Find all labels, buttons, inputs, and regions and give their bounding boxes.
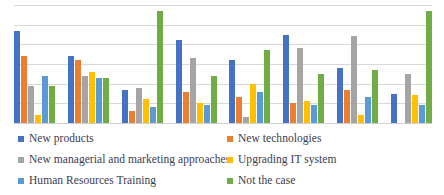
bar xyxy=(143,99,149,123)
bar xyxy=(103,78,109,123)
bar xyxy=(150,107,156,123)
bar xyxy=(337,68,343,123)
bar xyxy=(311,105,317,123)
bar-group xyxy=(229,5,270,123)
legend-item-label: Human Resources Training xyxy=(29,174,156,187)
bar xyxy=(412,95,418,123)
legend-swatch-icon xyxy=(227,157,233,163)
bar xyxy=(229,60,235,123)
bar xyxy=(204,105,210,123)
bar-group xyxy=(68,5,109,123)
legend-item-label: New technologies xyxy=(238,132,322,145)
legend-swatch-icon xyxy=(18,157,24,163)
bar xyxy=(42,76,48,123)
bar xyxy=(28,86,34,123)
legend-swatch-icon xyxy=(227,178,233,184)
bar-group xyxy=(176,5,217,123)
legend-swatch-icon xyxy=(227,136,233,142)
legend-swatch-icon xyxy=(18,136,24,142)
bar xyxy=(190,58,196,123)
chart-legend: New productsNew technologiesNew manageri… xyxy=(18,128,430,190)
bar xyxy=(318,74,324,123)
bar xyxy=(68,56,74,123)
bar xyxy=(257,92,263,123)
bar xyxy=(304,101,310,123)
bar xyxy=(197,103,203,123)
bar xyxy=(129,111,135,123)
bar xyxy=(96,78,102,123)
bar xyxy=(243,117,249,123)
plot-area xyxy=(14,5,432,123)
bar xyxy=(183,92,189,123)
bar xyxy=(236,97,242,123)
bar xyxy=(49,86,55,123)
legend-item-label: Upgrading IT system xyxy=(238,153,336,166)
legend-item[interactable]: Human Resources Training xyxy=(18,170,227,191)
legend-item[interactable]: Not the case xyxy=(227,170,430,191)
bar xyxy=(365,97,371,123)
bar-group xyxy=(122,5,163,123)
axis-baseline xyxy=(14,123,432,124)
bar-group xyxy=(283,5,324,123)
legend-item-label: New managerial and marketing approaches xyxy=(29,153,230,166)
bar xyxy=(176,40,182,123)
bar xyxy=(157,11,163,123)
legend-item[interactable]: New technologies xyxy=(227,128,430,149)
bar xyxy=(14,31,20,123)
bar xyxy=(358,115,364,123)
bar xyxy=(211,76,217,123)
bar-chart: New productsNew technologiesNew manageri… xyxy=(0,0,444,195)
bar xyxy=(75,60,81,123)
bar-series-layer xyxy=(14,5,432,123)
legend-item[interactable]: New products xyxy=(18,128,227,149)
bar-group xyxy=(14,5,55,123)
legend-item-label: Not the case xyxy=(238,174,295,187)
legend-item[interactable]: New managerial and marketing approaches xyxy=(18,149,227,170)
bar xyxy=(372,70,378,123)
bar xyxy=(264,50,270,123)
bar xyxy=(290,103,296,123)
bar xyxy=(250,84,256,123)
legend-item[interactable]: Upgrading IT system xyxy=(227,149,430,170)
bar xyxy=(89,72,95,123)
bar xyxy=(122,90,128,123)
legend-item-label: New products xyxy=(29,132,94,145)
bar xyxy=(283,35,289,124)
bar xyxy=(419,105,425,123)
legend-swatch-icon xyxy=(18,178,24,184)
bar xyxy=(136,88,142,123)
bar-group xyxy=(391,5,432,123)
bar xyxy=(351,36,357,123)
bar xyxy=(405,74,411,123)
bar xyxy=(21,56,27,123)
bar xyxy=(426,11,432,123)
bar xyxy=(391,94,397,124)
bar-group xyxy=(337,5,378,123)
bar xyxy=(82,76,88,123)
bar xyxy=(297,48,303,123)
bar xyxy=(344,90,350,123)
bar xyxy=(35,115,41,123)
